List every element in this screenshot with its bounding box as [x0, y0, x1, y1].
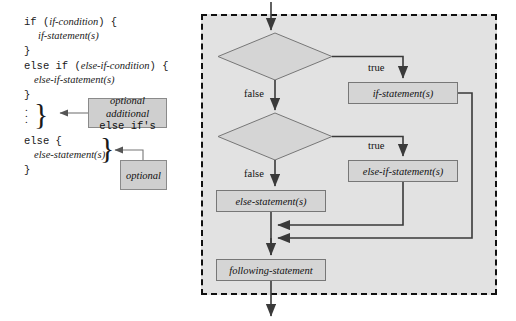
shape-if-condition-diamond — [218, 33, 332, 80]
diagram-root: if (if-condition) { if-statement(s) } el… — [0, 0, 516, 321]
callout-leader-lines — [60, 113, 143, 160]
leader-optional — [115, 150, 143, 160]
edge-elseif-return — [278, 182, 403, 225]
edge-elseif-true — [332, 137, 403, 157]
shape-else-if-condition-diamond — [218, 113, 332, 160]
edge-if-return — [278, 93, 472, 238]
edge-if-true — [332, 57, 403, 79]
connector-layer — [0, 0, 516, 321]
